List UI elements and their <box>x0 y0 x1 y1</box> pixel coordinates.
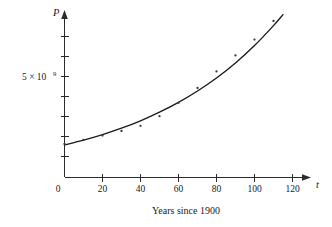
x-tick-label: 60 <box>174 184 184 194</box>
x-tick-label: 120 <box>285 184 300 194</box>
x-axis-label: t <box>316 179 320 190</box>
x-tick-label: 100 <box>247 184 262 194</box>
y-axis-label: P <box>52 7 60 18</box>
data-point <box>120 130 122 132</box>
data-point <box>82 139 84 141</box>
chart-canvas: P t 5 × 10 9 0 20 40 60 80 100 120 Years… <box>0 0 332 227</box>
data-point <box>215 70 217 72</box>
data-point <box>139 125 141 127</box>
x-axis-tick-labels: 0 20 40 60 80 100 120 <box>56 184 300 194</box>
y-tick-label-exponent: 9 <box>53 70 57 77</box>
x-tick-label: 80 <box>212 184 222 194</box>
exponential-model-curve <box>65 15 284 145</box>
population-growth-figure: P t 5 × 10 9 0 20 40 60 80 100 120 Years… <box>0 0 332 227</box>
y-axis-arrow <box>61 10 68 19</box>
data-point <box>101 134 103 136</box>
x-tick-label: 40 <box>136 184 146 194</box>
data-point <box>158 115 160 117</box>
data-point <box>63 143 65 145</box>
scatter-points-group <box>63 20 274 145</box>
data-point <box>253 38 255 40</box>
y-tick-label-group: 5 × 10 9 <box>22 70 57 83</box>
data-point <box>177 102 179 104</box>
x-tick-label: 0 <box>56 184 61 194</box>
x-axis-arrow <box>302 174 311 181</box>
figure-caption: Years since 1900 <box>152 205 220 216</box>
y-tick-label-mantissa: 5 × 10 <box>22 72 47 82</box>
x-tick-label: 20 <box>98 184 108 194</box>
data-point <box>196 87 198 89</box>
data-point <box>234 54 236 56</box>
data-point <box>272 20 274 22</box>
